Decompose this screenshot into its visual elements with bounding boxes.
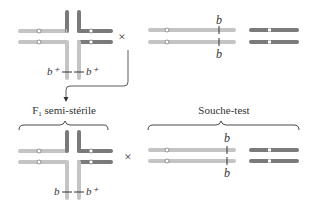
centromere	[89, 160, 93, 164]
centromere	[165, 40, 169, 44]
top-right-normal-figure: b b	[150, 13, 297, 61]
centromere	[268, 41, 271, 44]
bottom-left-translocation-figure: b b⁺	[20, 132, 111, 198]
allele-label-b-plus-left: b⁺	[47, 65, 60, 77]
allele-label-b-top: b	[224, 131, 230, 145]
cross-symbol-top: ×	[118, 29, 125, 44]
allele-label-b-bottom: b	[224, 166, 230, 180]
centromere	[37, 40, 41, 44]
arrow-head-icon	[64, 97, 69, 102]
allele-label-b-plus-right: b⁺	[86, 185, 99, 197]
centromere	[37, 160, 41, 164]
top-left-translocation-figure: b⁺ b⁺	[20, 12, 111, 78]
centromere	[89, 40, 93, 44]
centromere	[165, 28, 169, 32]
centromere	[165, 148, 169, 152]
centromere	[165, 159, 169, 163]
group-label-souche-test: Souche-test	[198, 104, 249, 116]
brace-souche-test	[148, 121, 299, 130]
centromere	[37, 149, 41, 153]
allele-label-b-plus-right: b⁺	[86, 65, 99, 77]
cross-symbol-bottom: ×	[124, 149, 131, 164]
allele-label-b-bottom: b	[216, 47, 222, 61]
centromere	[89, 149, 93, 153]
centromere	[89, 29, 93, 33]
centromere	[268, 149, 271, 152]
allele-label-b-left: b	[54, 185, 60, 197]
diagram-canvas: b⁺ b⁺ × b b F1 semi-stérile Souche-test	[0, 0, 318, 208]
centromere	[268, 160, 271, 163]
brace-f1	[19, 121, 108, 130]
allele-label-b-top: b	[216, 13, 222, 27]
centromere	[268, 29, 271, 32]
bottom-right-normal-figure: b b	[150, 131, 297, 180]
group-label-f1-semi-sterile: F1 semi-stérile	[32, 104, 96, 118]
centromere	[37, 29, 41, 33]
